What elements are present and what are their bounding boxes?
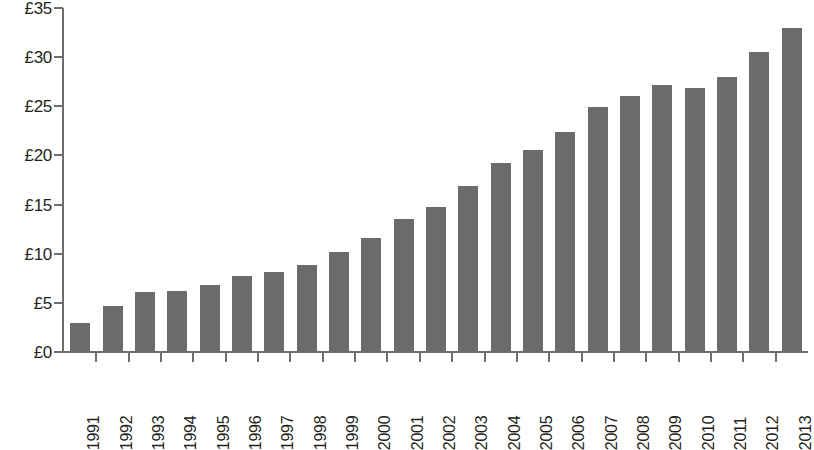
x-tick-mark (354, 353, 356, 362)
bar-slot (711, 8, 743, 352)
bar-slot (129, 8, 161, 352)
x-tick-mark (419, 353, 421, 362)
x-tick-mark (645, 353, 647, 362)
bar (717, 77, 737, 352)
x-tick-mark (160, 353, 162, 362)
y-tick-mark (54, 7, 63, 9)
x-tick-label: 1999 (345, 418, 361, 450)
x-tick-label: 1993 (151, 418, 167, 450)
bar-slot (679, 8, 711, 352)
x-tick-label: 2012 (765, 418, 781, 450)
bar-slot (776, 8, 808, 352)
x-tick-label: 2010 (701, 418, 717, 450)
bar (620, 96, 640, 352)
x-tick-mark (128, 353, 130, 362)
bar (588, 107, 608, 352)
y-tick-mark (54, 253, 63, 255)
bar-slot (517, 8, 549, 352)
bar-slot (290, 8, 322, 352)
x-tick-label: 2011 (733, 418, 749, 450)
bar (70, 323, 90, 352)
bar (103, 306, 123, 352)
bar (555, 132, 575, 352)
y-tick-label: £15 (0, 197, 52, 214)
bar-slot (582, 8, 614, 352)
bar (652, 85, 672, 352)
bar (685, 88, 705, 352)
x-tick-label: 2007 (604, 418, 620, 450)
x-tick-mark (451, 353, 453, 362)
bar (264, 272, 284, 352)
x-tick-label: 1995 (216, 418, 232, 450)
x-tick-mark (289, 353, 291, 362)
bar (232, 276, 252, 352)
bar-slot (743, 8, 775, 352)
bar-slot (96, 8, 128, 352)
bar (782, 28, 802, 352)
x-tick-label: 2008 (636, 418, 652, 450)
bar (200, 285, 220, 352)
bar (135, 292, 155, 352)
x-tick-mark (192, 353, 194, 362)
x-axis-labels: 1991199219931994199519961997199819992000… (64, 366, 808, 423)
bar (523, 150, 543, 352)
x-tick-label: 1996 (248, 418, 264, 450)
bar-slot (323, 8, 355, 352)
bar (426, 207, 446, 352)
x-tick-label: 2003 (474, 418, 490, 450)
x-tick-mark (95, 353, 97, 362)
x-tick-label: 1997 (280, 418, 296, 450)
x-tick-label: 2004 (507, 418, 523, 450)
x-tick-label: 2001 (410, 418, 426, 450)
bar-slot (226, 8, 258, 352)
x-tick-label: 2005 (539, 418, 555, 450)
bar (749, 52, 769, 352)
bar (167, 291, 187, 352)
x-tick-label: 2009 (668, 418, 684, 450)
y-tick-mark (54, 105, 63, 107)
bar-slot (161, 8, 193, 352)
bar-slot (420, 8, 452, 352)
bar-slot (646, 8, 678, 352)
x-tick-label: 1994 (183, 418, 199, 450)
bar-slot (387, 8, 419, 352)
x-tick-mark (775, 353, 777, 362)
x-tick-mark (516, 353, 518, 362)
x-tick-mark (710, 353, 712, 362)
y-tick-mark (54, 56, 63, 58)
y-tick-label: £20 (0, 147, 52, 164)
x-tick-mark (322, 353, 324, 362)
x-tick-mark (386, 353, 388, 362)
y-tick-label: £35 (0, 0, 52, 17)
bar-slot (193, 8, 225, 352)
bar-slot (355, 8, 387, 352)
bar-slot (485, 8, 517, 352)
bar (329, 252, 349, 352)
y-tick-label: £0 (0, 344, 52, 361)
bar-slot (614, 8, 646, 352)
y-tick-label: £10 (0, 246, 52, 263)
y-tick-mark (54, 351, 63, 353)
x-tick-mark (613, 353, 615, 362)
y-tick-mark (54, 204, 63, 206)
y-tick-label: £25 (0, 98, 52, 115)
x-tick-label: 1991 (86, 418, 102, 450)
y-tick-mark (54, 302, 63, 304)
bar-slot (549, 8, 581, 352)
x-tick-mark (225, 353, 227, 362)
x-tick-label: 2006 (571, 418, 587, 450)
bar (394, 219, 414, 352)
x-tick-mark (484, 353, 486, 362)
x-tick-label: 1992 (119, 418, 135, 450)
bar (458, 186, 478, 352)
x-tick-label: 1998 (313, 418, 329, 450)
x-tick-mark (581, 353, 583, 362)
x-tick-mark (742, 353, 744, 362)
y-tick-label: £30 (0, 49, 52, 66)
y-axis-labels: £0£5£10£15£20£25£30£35 (0, 0, 52, 360)
bar-slot (452, 8, 484, 352)
x-tick-mark (678, 353, 680, 362)
bar (297, 265, 317, 352)
bar (361, 238, 381, 352)
